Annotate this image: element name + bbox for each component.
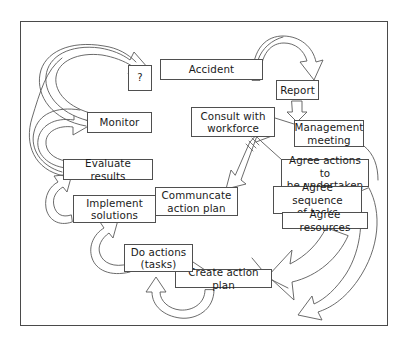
node-accident[interactable]: Accident <box>160 59 263 80</box>
node-report[interactable]: Report <box>276 80 319 100</box>
node-monitor[interactable]: Monitor <box>87 112 152 133</box>
node-implement-solutions[interactable]: Implement solutions <box>73 195 156 223</box>
node-question-mark[interactable]: ? <box>128 65 152 91</box>
node-consult-with-workforce[interactable]: Consult with workforce <box>191 107 275 137</box>
node-management-meeting[interactable]: Management meeting <box>294 120 364 147</box>
flowchart-canvas: Accident Report Management meeting Consu… <box>0 0 410 349</box>
node-agree-resources[interactable]: Agree resources <box>282 212 368 229</box>
node-evaluate-results[interactable]: Evaluate results <box>63 159 153 180</box>
node-do-actions-tasks[interactable]: Do actions (tasks) <box>124 244 193 272</box>
node-communcate-action-plan[interactable]: Communcate action plan <box>155 187 238 216</box>
